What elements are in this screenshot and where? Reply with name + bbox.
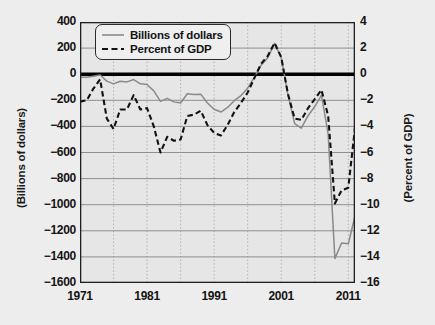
y-tick-right-6: −8 [360, 171, 373, 185]
y-tick-right-8: −12 [360, 223, 379, 237]
y-tick-right-4: −4 [360, 118, 373, 132]
chart-legend: Billions of dollars Percent of GDP [95, 24, 231, 60]
y-tick-left-6: −800 [16, 171, 76, 185]
y-tick-left-4: −400 [16, 118, 76, 132]
y-tick-left-2: 0 [16, 66, 76, 80]
y-tick-right-5: −6 [360, 145, 373, 159]
plot-area [80, 22, 355, 283]
x-tick-2: 1991 [184, 289, 244, 303]
y-tick-left-9: −1400 [16, 249, 76, 263]
legend-item-billions: Billions of dollars [101, 28, 223, 42]
y-tick-left-10: −1600 [16, 275, 76, 289]
y-tick-right-7: −10 [360, 197, 379, 211]
y-tick-right-3: −2 [360, 92, 373, 106]
y-tick-left-3: −200 [16, 92, 76, 106]
y-tick-right-1: 2 [360, 40, 366, 54]
y-tick-left-8: −1200 [16, 223, 76, 237]
x-tick-4: 2011 [318, 289, 378, 303]
series-line-percent-gdp [80, 43, 355, 204]
horizontal-gridlines [80, 48, 355, 257]
x-tick-1: 1981 [117, 289, 177, 303]
y-tick-left-5: −600 [16, 145, 76, 159]
y-axis-right-title: (Percent of GDP) [402, 93, 414, 223]
legend-swatch-dashed-line [101, 44, 125, 54]
y-tick-left-7: −1000 [16, 197, 76, 211]
y-tick-right-10: −16 [360, 275, 379, 289]
legend-swatch-solid-line [101, 30, 125, 40]
x-tick-0: 1971 [50, 289, 110, 303]
y-tick-left-0: 400 [16, 14, 76, 28]
chart-figure: (Billions of dollars) (Percent of GDP) 4… [0, 0, 435, 325]
y-tick-left-1: 200 [16, 40, 76, 54]
legend-label-billions: Billions of dollars [130, 28, 223, 42]
y-tick-right-0: 4 [360, 14, 366, 28]
legend-label-percent: Percent of GDP [130, 42, 212, 56]
x-tick-3: 2001 [251, 289, 311, 303]
y-tick-right-2: 0 [360, 66, 366, 80]
legend-item-percent: Percent of GDP [101, 42, 223, 56]
plot-canvas [80, 22, 355, 283]
y-tick-right-9: −14 [360, 249, 379, 263]
